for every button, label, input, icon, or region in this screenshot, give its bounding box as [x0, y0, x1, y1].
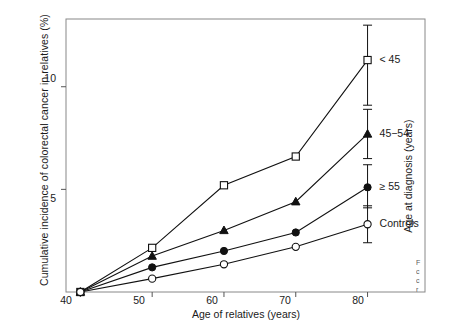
data-point-0-60 [220, 182, 227, 189]
data-point-2-60 [220, 247, 227, 254]
data-point-1-80 [363, 130, 371, 138]
series-line-3 [80, 224, 367, 292]
data-point-3-80 [364, 221, 371, 228]
data-point-2-70 [292, 229, 299, 236]
data-point-3-40 [77, 288, 84, 295]
series-line-0 [80, 60, 367, 292]
data-point-0-70 [292, 153, 299, 160]
figure-panel: Cumulative incidence of colorectal cance… [0, 0, 450, 335]
data-point-3-70 [292, 243, 299, 250]
data-point-0-80 [364, 56, 371, 63]
data-point-3-60 [220, 261, 227, 268]
data-point-0-50 [149, 244, 156, 251]
data-point-3-50 [149, 275, 156, 282]
series-line-2 [80, 187, 367, 292]
data-point-2-50 [149, 264, 156, 271]
data-point-2-80 [364, 184, 371, 191]
chart-canvas [0, 0, 450, 335]
